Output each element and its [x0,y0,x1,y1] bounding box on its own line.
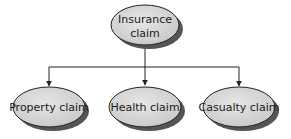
node-label: Property claim [9,101,89,114]
node-root: Insurance claim [111,5,183,49]
connectors [49,45,239,86]
node-label-line2: claim [130,27,160,40]
node-label: Casualty claim [199,101,280,114]
node-casualty-claim: Casualty claim [199,87,280,131]
hierarchy-diagram: Insurance claim Property claim Health cl… [0,0,291,139]
node-health-claim: Health claim [109,87,185,131]
node-property-claim: Property claim [9,87,89,131]
node-label-line1: Insurance [118,13,172,26]
node-label: Health claim [110,101,179,114]
